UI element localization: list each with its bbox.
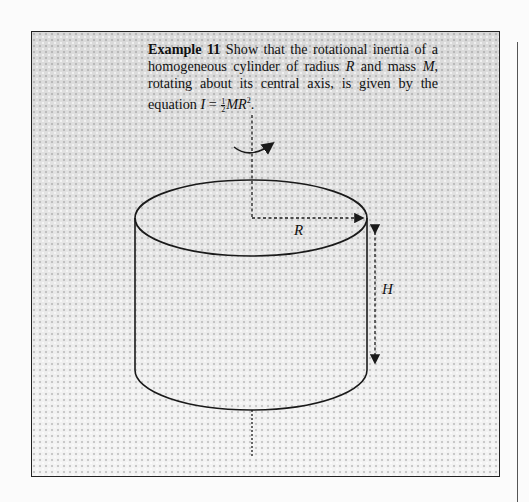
rotation-arrow-icon	[234, 144, 272, 153]
cylinder-top	[135, 180, 367, 256]
radius-label: R	[294, 222, 303, 239]
cylinder-bottom	[135, 370, 367, 410]
height-label: H	[382, 281, 393, 298]
